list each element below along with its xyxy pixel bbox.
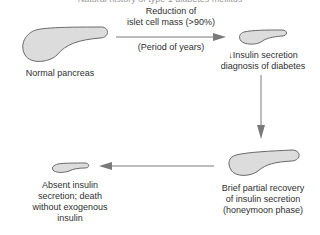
transition-label-line: islet cell mass (>90%) [116, 17, 226, 28]
stage-label-line: (honeymoon phase) [206, 205, 320, 216]
transition-label-above: Reduction of islet cell mass (>90%) [116, 6, 226, 28]
stage-label-line: insulin [20, 213, 120, 224]
arrowhead-left-icon [99, 162, 112, 170]
stage-label-absent: Absent insulin secretion; death without … [20, 180, 120, 224]
normal-pancreas-shape [23, 27, 108, 61]
stage-label-line: without exogenous [20, 202, 120, 213]
stage-label-honeymoon: Brief partial recovery of insulin secret… [206, 183, 320, 216]
stage-label-line: of insulin secretion [206, 194, 320, 205]
stage-label-line: diagnosis of diabetes [206, 61, 320, 72]
stage-label-line: secretion; death [20, 191, 120, 202]
stage-label-diagnosis: ↓Insulin secretion diagnosis of diabetes [206, 50, 320, 72]
stage-label-line: ↓Insulin secretion [206, 50, 320, 61]
diagram-title-clipped: Natural history of type 1 diabetes melli… [40, 0, 280, 4]
stage-label-line: Absent insulin [20, 180, 120, 191]
absent-pancreas-shape [52, 163, 88, 172]
stage-label-normal: Normal pancreas [0, 68, 120, 79]
arrowhead-right-icon [213, 33, 226, 41]
stage-label-line: Brief partial recovery [206, 183, 320, 194]
honeymoon-pancreas-shape [229, 150, 299, 175]
diagnosis-pancreas-shape [240, 30, 287, 44]
transition-label-line: Reduction of [116, 6, 226, 17]
arrowhead-down-icon [257, 125, 265, 139]
